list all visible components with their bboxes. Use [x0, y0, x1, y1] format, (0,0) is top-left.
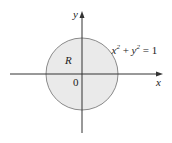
region-label: R: [65, 55, 72, 66]
y-axis-arrow-icon: [80, 11, 85, 18]
y-axis-label: y: [73, 9, 78, 20]
circle-equation: x2 + y2 = 1: [106, 33, 157, 56]
origin-label: 0: [73, 77, 79, 88]
diagram-canvas: [0, 0, 172, 143]
x-axis-label: x: [156, 77, 161, 88]
